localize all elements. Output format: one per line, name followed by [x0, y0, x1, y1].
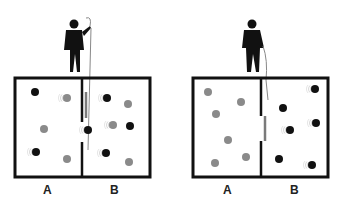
panel-right [193, 20, 328, 178]
maxwell-demon-diagram [0, 0, 339, 209]
label-a-right: A [223, 183, 232, 197]
door-cord-right [263, 46, 268, 100]
demon-figure-right [242, 20, 264, 73]
molecules-left [27, 88, 134, 166]
panel-left [15, 18, 150, 177]
label-b-left: B [110, 183, 119, 197]
label-b-right: B [290, 183, 299, 197]
demon-figure-left [64, 20, 91, 73]
label-a-left: A [43, 183, 52, 197]
